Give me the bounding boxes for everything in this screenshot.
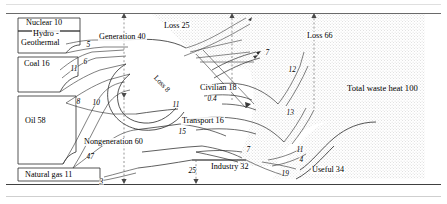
arrow-down-industry [193, 179, 198, 184]
sankey-canvas [0, 0, 447, 204]
natural-gas-box [18, 168, 100, 181]
arrow-down-nongeneration [121, 179, 126, 184]
nuclear-box [18, 18, 80, 31]
oil-box [18, 96, 76, 164]
source-flows [60, 40, 138, 181]
arrow-mid-generation [121, 93, 126, 98]
generation-node [108, 39, 186, 130]
waste-heat-region [152, 14, 425, 180]
hydro-box [18, 31, 80, 53]
sankey-figure: Nuclear 10 Hydro - Geothermal Coal 16 Oi… [0, 0, 447, 204]
coal-box [18, 57, 78, 92]
